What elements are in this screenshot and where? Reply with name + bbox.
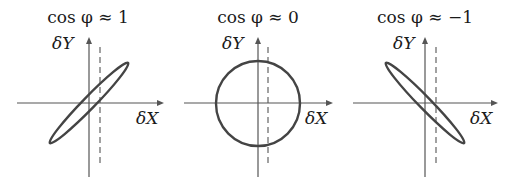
panel-cos-phi-minus-1: cos φ ≈ −1 δY δX <box>353 7 498 177</box>
y-axis-label: δY <box>52 33 75 53</box>
x-axis-label: δX <box>305 108 328 128</box>
x-axis-label: δX <box>470 108 493 128</box>
panel-cos-phi-0: cos φ ≈ 0 δY δX <box>184 7 333 177</box>
lissajous-diagram: cos φ ≈ 1 δY δX cos φ ≈ 0 δY δX cos φ ≈ … <box>0 0 511 183</box>
panel-title: cos φ ≈ −1 <box>377 7 473 27</box>
panel-cos-phi-1: cos φ ≈ 1 δY δX <box>17 7 164 177</box>
x-axis-label: δX <box>136 108 159 128</box>
y-axis-arrow-icon <box>422 37 428 44</box>
x-axis-arrow-icon <box>157 100 164 106</box>
panel-title: cos φ ≈ 1 <box>47 7 129 27</box>
y-axis-label: δY <box>222 33 245 53</box>
y-axis-arrow-icon <box>255 37 261 44</box>
panel-title: cos φ ≈ 0 <box>217 7 299 27</box>
y-axis-label: δY <box>393 33 416 53</box>
x-axis-arrow-icon <box>326 100 333 106</box>
y-axis-arrow-icon <box>86 37 92 44</box>
x-axis-arrow-icon <box>491 100 498 106</box>
